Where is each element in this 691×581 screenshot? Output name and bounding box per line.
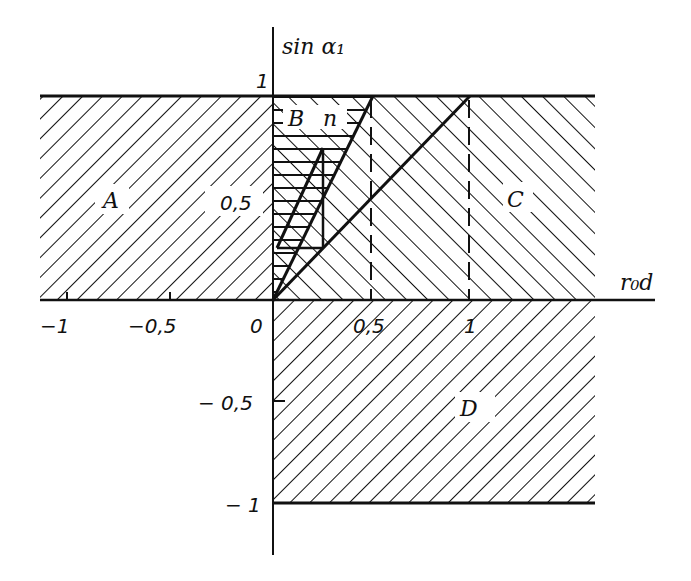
x-axis-label: r₀d bbox=[620, 270, 653, 295]
region-label-b: B bbox=[287, 106, 304, 131]
y-axis-label: sin α₁ bbox=[282, 34, 345, 59]
x-tick-label-05: 0,5 bbox=[353, 314, 385, 338]
region-label-n: n bbox=[323, 106, 337, 131]
region-label-d: D bbox=[459, 396, 478, 421]
x-tick-label-1: 1 bbox=[464, 314, 477, 338]
x-tick-label-neg1: −1 bbox=[40, 314, 69, 338]
x-tick-label-0: 0 bbox=[250, 314, 263, 338]
region-d bbox=[273, 300, 595, 503]
region-diagram: sin α₁ r₀d A B n C D −1 −0,5 0 0,5 1 1 0… bbox=[0, 0, 691, 581]
region-label-a: A bbox=[101, 188, 119, 213]
y-tick-label-05: 0,5 bbox=[220, 191, 252, 215]
y-tick-label-neg05: − 0,5 bbox=[198, 391, 253, 415]
y-tick-label-neg1: − 1 bbox=[225, 493, 261, 517]
y-tick-label-1: 1 bbox=[256, 69, 269, 93]
region-label-c: C bbox=[507, 187, 524, 212]
x-tick-label-neg05: −0,5 bbox=[128, 314, 177, 338]
